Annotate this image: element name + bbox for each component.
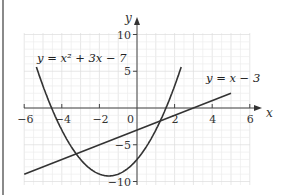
x-tick-label: 4	[209, 113, 216, 126]
x-tick-label: −6	[17, 113, 33, 126]
y-tick-label: −10	[108, 176, 131, 189]
chart: −6−4−20246105−5−10 x y y = x² + 3x − 7 y…	[0, 0, 284, 195]
x-tick-label: 6	[247, 113, 254, 126]
line-equation-label: y = x − 3	[205, 71, 260, 85]
y-axis-arrow-icon	[134, 17, 140, 25]
y-tick-label: 10	[117, 29, 131, 42]
y-tick-label: −5	[115, 139, 131, 152]
parabola-equation-label: y = x² + 3x − 7	[36, 51, 127, 65]
x-axis-arrow-icon	[254, 105, 262, 111]
x-tick-label: 0	[127, 113, 134, 126]
x-tick-label: −2	[92, 113, 108, 126]
y-tick-label: 5	[124, 65, 131, 78]
x-axis-label: x	[266, 106, 273, 120]
y-axis-label: y	[124, 11, 132, 25]
